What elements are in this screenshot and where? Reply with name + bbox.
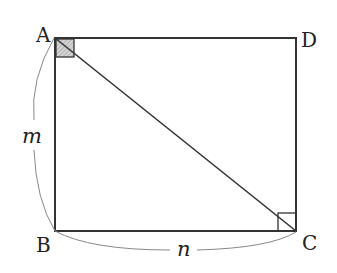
brace-n bbox=[55, 231, 296, 250]
vertex-label-a: A bbox=[35, 23, 51, 47]
vertex-label-b: B bbox=[36, 233, 51, 257]
vertex-label-d: D bbox=[301, 28, 317, 52]
vertex-label-c: C bbox=[302, 231, 317, 255]
geometry-diagram: A B C D m n bbox=[0, 0, 337, 273]
side-label-n: n bbox=[177, 237, 191, 261]
side-label-m: m bbox=[22, 124, 42, 148]
diagonal-ac bbox=[55, 38, 296, 231]
